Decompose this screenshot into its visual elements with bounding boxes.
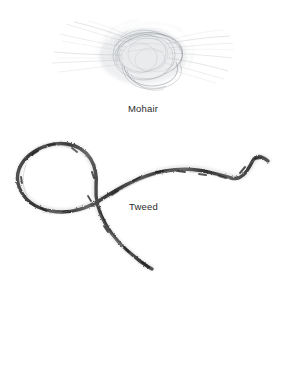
mohair-core-tangle [113, 28, 183, 90]
mohair-stray-fibers-right [164, 30, 234, 83]
tweed-highlights [23, 145, 262, 248]
mohair-outer-fuzz [96, 20, 193, 86]
yarn-specimen-figure: Mohair [0, 0, 286, 369]
tweed-right-strand [93, 157, 268, 205]
tweed-specimen-image [0, 0, 286, 369]
mohair-stray-fibers-left [52, 21, 132, 72]
tweed-label: Tweed [0, 202, 286, 212]
mohair-label: Mohair [0, 104, 286, 114]
mohair-halo [99, 28, 187, 84]
mohair-specimen-image [0, 0, 286, 369]
